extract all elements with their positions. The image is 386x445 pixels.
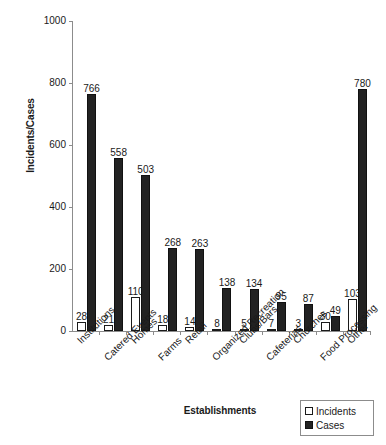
x-tick-mark [262,331,263,335]
x-category-label: Farms [156,335,184,363]
bar-cases: 138 [222,288,231,331]
bar-value-label: 5 [241,318,247,329]
bar-value-label: 3 [295,318,301,329]
bar-incidents: 7 [267,329,276,331]
x-tick-mark [289,331,290,335]
bar-incidents: 21 [104,325,113,332]
x-tick-mark [153,331,154,335]
y-tick-label: 400 [49,200,66,213]
x-axis-title: Establishments [150,405,290,416]
bar-value-label: 7 [268,318,274,329]
bar-incidents: 30 [321,322,330,331]
bar-value-label: 503 [137,164,154,175]
bar-cases: 766 [87,94,96,331]
legend-item-cases: Cases [305,418,369,432]
x-tick-mark [99,331,100,335]
bar-value-label: 134 [246,278,263,289]
bar-group: 28766 [73,22,100,331]
chart-legend: Incidents Cases [300,400,374,436]
x-tick-mark [316,331,317,335]
y-tick-label: 200 [49,262,66,275]
bar-group: 21558 [100,22,127,331]
x-tick-mark [370,331,371,335]
bar-group: 795 [263,22,290,331]
bar-group: 110503 [127,22,154,331]
bar-cases: 134 [250,289,259,331]
legend-item-incidents: Incidents [305,404,369,418]
bar-incidents: 14 [185,327,194,331]
y-tick-label: 800 [49,76,66,89]
y-tick-label: 1000 [44,14,66,27]
bar-value-label: 49 [330,305,341,316]
white-square-icon [305,407,313,415]
bar-incidents: 3 [294,329,303,331]
bar-group: 8138 [208,22,235,331]
x-tick-mark [180,331,181,335]
x-tick-mark [235,331,236,335]
bar-value-label: 268 [164,237,181,248]
bar-cases: 49 [331,316,340,331]
bar-value-label: 14 [184,316,195,327]
bar-value-label: 18 [157,314,168,325]
bar-value-label: 87 [303,293,314,304]
bar-incidents: 5 [240,329,249,331]
bar-cases: 87 [304,304,313,331]
bar-cases: 780 [358,89,367,331]
x-tick-mark [343,331,344,335]
bar-chart-figure: Incidents/Cases 02004006008001000 287662… [0,0,386,445]
bar-incidents: 8 [212,329,221,331]
bar-value-label: 766 [83,83,100,94]
legend-label-incidents: Incidents [316,406,356,417]
x-tick-mark [126,331,127,335]
bar-cases: 268 [168,248,177,331]
bar-value-label: 28 [76,311,87,322]
bar-value-label: 138 [219,277,236,288]
bar-value-label: 780 [354,78,371,89]
bar-value-label: 95 [276,291,287,302]
bar-group: 103780 [344,22,371,331]
bar-incidents: 110 [131,297,140,331]
y-axis-title: Incidents/Cases [25,66,36,206]
bar-cases: 503 [141,175,150,331]
bar-group: 18268 [154,22,181,331]
bar-value-label: 558 [110,147,127,158]
bar-group: 5134 [236,22,263,331]
legend-label-cases: Cases [316,420,344,431]
x-tick-mark [207,331,208,335]
bar-incidents: 18 [158,325,167,331]
plot-area: 02004006008001000 2876621558110503182681… [72,22,370,332]
y-tick-label: 0 [60,324,66,337]
bar-group: 14263 [181,22,208,331]
bar-value-label: 21 [103,314,114,325]
bar-cases: 263 [195,249,204,331]
bar-incidents: 103 [348,299,357,331]
bar-value-label: 8 [214,318,220,329]
bar-group: 3049 [317,22,344,331]
bar-cases: 558 [114,158,123,331]
black-square-icon [305,421,313,429]
bar-group: 387 [290,22,317,331]
y-tick-label: 600 [49,138,66,151]
bar-series-container: 2876621558110503182681426381385134795387… [73,22,370,331]
bar-value-label: 263 [192,238,209,249]
bar-cases: 95 [277,302,286,331]
bar-incidents: 28 [77,322,86,331]
